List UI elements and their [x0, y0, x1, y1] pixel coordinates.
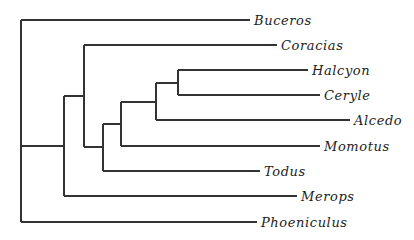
- taxon-label-merops: Merops: [301, 190, 355, 203]
- taxon-label-todus: Todus: [264, 165, 306, 178]
- taxon-label-momotus: Momotus: [324, 140, 390, 153]
- taxon-label-buceros: Buceros: [254, 14, 312, 27]
- phylogenetic-tree: [0, 0, 414, 240]
- taxon-label-ceryle: Ceryle: [324, 89, 371, 102]
- taxon-label-coracias: Coracias: [281, 39, 343, 52]
- taxon-label-alcedo: Alcedo: [354, 114, 402, 127]
- taxon-label-halcyon: Halcyon: [312, 64, 370, 77]
- taxon-label-phoeniculus: Phoeniculus: [261, 216, 348, 229]
